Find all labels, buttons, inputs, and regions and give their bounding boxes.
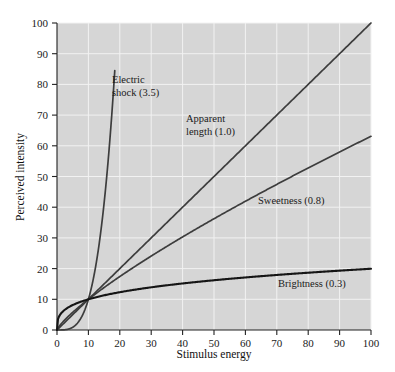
y-tick-label: 40 [37, 201, 49, 213]
y-axis-title: Perceived intensity [14, 133, 27, 221]
curve-label-line1: Brightness (0.3) [278, 278, 346, 290]
curve-label-line1: Apparent [186, 113, 225, 124]
y-tick-label: 50 [37, 171, 49, 183]
curve-label-3: Brightness (0.3) [278, 278, 346, 290]
y-tick-label: 80 [37, 78, 49, 90]
y-tick-label: 90 [37, 48, 49, 60]
y-tick-label: 20 [37, 263, 49, 275]
y-tick-label: 10 [37, 293, 49, 305]
x-axis-title: Stimulus energy [177, 348, 252, 361]
curve-label-line2: shock (3.5) [112, 87, 160, 99]
y-tick-label: 100 [32, 17, 49, 29]
x-tick-label: 90 [334, 337, 346, 349]
x-tick-label: 0 [54, 337, 60, 349]
stevens-power-law-chart: 0102030405060708090100 01020304050607080… [0, 0, 395, 372]
x-tick-label: 80 [303, 337, 315, 349]
curve-label-2: Sweetness (0.8) [258, 195, 325, 207]
x-tick-label: 30 [146, 337, 158, 349]
y-tick-label: 0 [43, 324, 49, 336]
y-tick-label: 30 [37, 232, 49, 244]
curve-label-line1: Electric [112, 74, 145, 85]
curve-label-line1: Sweetness (0.8) [258, 195, 325, 207]
y-tick-label: 60 [37, 140, 49, 152]
x-tick-label: 20 [114, 337, 126, 349]
y-tick-label: 70 [37, 109, 49, 121]
curve-label-line2: length (1.0) [186, 126, 235, 138]
figure-container: 0102030405060708090100 01020304050607080… [0, 0, 395, 372]
x-tick-label: 100 [363, 337, 380, 349]
x-tick-label: 10 [83, 337, 95, 349]
x-tick-label: 70 [271, 337, 283, 349]
